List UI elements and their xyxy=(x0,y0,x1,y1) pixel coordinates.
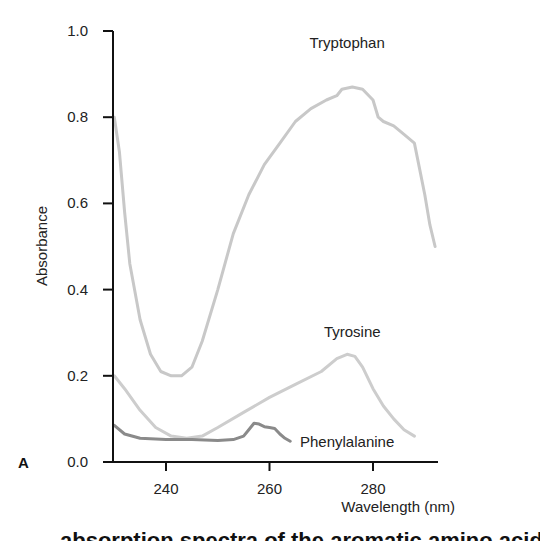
y-axis-title: Absorbance xyxy=(33,206,50,286)
y-tick-label: 0.2 xyxy=(67,367,88,384)
figure-caption: absorption spectra of the aromatic amino… xyxy=(60,526,540,541)
y-tick-label: 0.0 xyxy=(67,453,88,470)
y-tick-label: 0.4 xyxy=(67,281,88,298)
panel-label: A xyxy=(18,454,29,471)
x-tick-label: 240 xyxy=(153,480,178,497)
x-tick-label: 260 xyxy=(257,480,282,497)
series-line-phenylalanine xyxy=(114,423,290,441)
series-label-tryptophan: Tryptophan xyxy=(309,34,384,51)
series-label-phenylalanine: Phenylalanine xyxy=(300,433,394,450)
y-tick-label: 0.8 xyxy=(67,108,88,125)
series-line-tryptophan xyxy=(114,87,435,376)
series-layer: TryptophanTyrosinePhenylalanine xyxy=(114,34,435,450)
series-label-tyrosine: Tyrosine xyxy=(324,323,381,340)
y-tick-label: 1.0 xyxy=(67,22,88,39)
x-axis-title: Wavelength (nm) xyxy=(341,498,455,515)
y-tick-label: 0.6 xyxy=(67,194,88,211)
x-tick-label: 280 xyxy=(360,480,385,497)
